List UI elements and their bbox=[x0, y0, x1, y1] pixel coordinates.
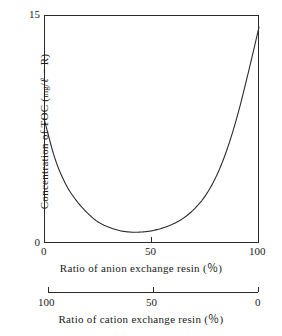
y-axis-unit-dash: − bbox=[38, 65, 50, 78]
xtick-label-cation-50: 50 bbox=[146, 296, 157, 308]
figure-container: 15 0 Concentration of TOC (mg/ℓ − R) 0 5… bbox=[0, 0, 282, 336]
xtick-label-anion-100: 100 bbox=[249, 245, 266, 257]
y-axis-label-lead: Concentration of TOC bbox=[38, 102, 50, 210]
y-axis-unit-slash: / bbox=[38, 83, 50, 86]
secondary-tick-50 bbox=[153, 287, 154, 292]
x-axis-label-anion: Ratio of anion exchange resin (％) bbox=[0, 262, 282, 275]
x-axis-label-cation: Ratio of cation exchange resin (％) bbox=[0, 313, 282, 326]
y-axis-label-close-paren: ) bbox=[38, 54, 50, 58]
secondary-xtick-labels: 100 50 0 bbox=[0, 296, 282, 310]
y-axis-unit-mg: mg bbox=[40, 86, 50, 98]
ytick-label-15: 15 bbox=[14, 9, 40, 20]
y-axis-unit-r: R bbox=[38, 58, 50, 66]
y-axis-label: Concentration of TOC (mg/ℓ − R) bbox=[38, 24, 51, 239]
secondary-axis-line bbox=[48, 292, 258, 293]
secondary-tick-0 bbox=[258, 287, 259, 292]
xtick-label-anion-0: 0 bbox=[41, 245, 47, 257]
toc-curve bbox=[44, 27, 259, 232]
chart-canvas bbox=[44, 15, 259, 243]
secondary-tick-100 bbox=[48, 287, 49, 292]
xtick-label-cation-100: 100 bbox=[38, 296, 55, 308]
primary-xtick-labels: 0 50 100 bbox=[0, 245, 282, 259]
xtick-label-anion-50: 50 bbox=[145, 245, 156, 257]
y-axis-unit-litre: ℓ bbox=[38, 78, 50, 83]
xtick-label-cation-0: 0 bbox=[255, 296, 261, 308]
y-axis-label-open-paren: ( bbox=[38, 98, 50, 102]
